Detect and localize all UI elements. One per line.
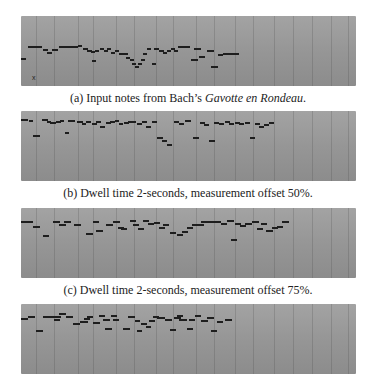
note-bar [178,46,190,48]
note-bar [68,120,75,122]
note-bar [245,223,252,225]
note-bar [187,227,193,229]
gridline [274,208,275,278]
note-bar [170,232,176,234]
note-bar [100,126,105,128]
note-bar [92,123,97,125]
note-bar [87,316,93,318]
note-bar [99,315,105,317]
gridline [331,16,332,86]
note-bar [135,320,140,322]
gridline [78,16,79,86]
gridline [348,208,349,278]
note-bar [33,226,40,228]
note-bar [266,230,273,232]
note-bar [257,228,263,230]
note-bar [115,120,119,122]
gridline [214,304,215,374]
note-bar [60,120,64,122]
gridline [36,304,37,374]
note-bar [128,316,135,318]
gridline [54,208,55,278]
note-bar [192,224,204,226]
gridline [312,111,313,181]
note-bar [115,50,119,52]
note-bar [113,221,120,223]
caption-c: (c) Dwell time 2-seconds, measurement of… [0,283,376,297]
note-bar [65,132,69,134]
note-bar [167,144,172,146]
gridline [134,304,135,374]
note-bar [103,319,110,321]
note-bar [191,59,198,61]
note-bar [209,140,215,142]
note-bar [123,53,128,55]
gridline [78,304,79,374]
caption-text: (a) Input notes from Bach’s [70,91,205,105]
gridline [312,208,313,278]
note-bar [29,120,33,122]
note-bar [28,316,35,318]
note-bar [252,221,259,223]
gridline [36,208,37,278]
note-bar [227,220,234,222]
note-bar [194,48,201,50]
note-bar [174,50,178,52]
note-bar [177,315,183,317]
note-bar [43,49,48,51]
caption-title: Gavotte en Rondeau [205,91,303,105]
gridline [274,304,275,374]
gridline [274,111,275,181]
note-bar [121,228,127,230]
note-bar [217,321,223,323]
gridline [348,304,349,374]
note-bar [201,320,208,322]
note-bar [204,124,209,126]
note-bar [96,230,103,232]
note-bar [59,313,66,315]
piano-roll-panel-c [21,208,356,278]
note-bar [21,221,33,223]
caption-text: . [303,91,306,105]
note-bar [199,56,205,58]
gridline [134,208,135,278]
note-bar [132,121,136,123]
note-bar [93,322,100,324]
note-bar [239,123,244,125]
gridline [116,208,117,278]
gridline [156,208,157,278]
gridline [196,208,197,278]
gridline [156,304,157,374]
note-bar [219,123,224,125]
note-bar [211,330,217,332]
gridline [93,208,94,278]
note-bar [64,221,71,223]
gridline [253,111,254,181]
note-bar [130,220,136,222]
gridline [36,16,37,86]
note-bar [137,330,142,332]
note-bar [195,315,201,317]
note-bar [250,137,255,139]
gridline [293,208,294,278]
gridline [293,16,294,86]
note-bar [225,319,232,321]
gridline [235,208,236,278]
gridline [93,111,94,181]
gridline [173,304,174,374]
note-bar [84,318,90,320]
note-bar [245,122,250,124]
note-bar [157,137,163,139]
note-bar [240,225,246,227]
note-bar [86,121,91,123]
note-bar [93,221,99,223]
note-bar [179,123,184,125]
note-bar [43,235,49,237]
note-bar [113,319,119,321]
note-bar [159,227,165,229]
gridline [214,208,215,278]
note-bar [179,319,187,321]
note-bar [187,328,193,330]
note-bar [33,135,40,137]
gridline [293,304,294,374]
